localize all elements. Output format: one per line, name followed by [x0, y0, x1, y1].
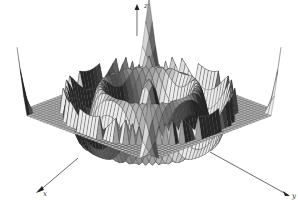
- y-axis: [210, 152, 290, 196]
- x-axis-label: x: [43, 190, 47, 198]
- surface-facet: [17, 47, 24, 85]
- surface-facet: [274, 47, 281, 85]
- surface-facet: [271, 72, 278, 102]
- y-axis-label: y: [292, 192, 296, 200]
- surface-plot: [0, 0, 298, 208]
- z-axis: [135, 4, 140, 36]
- surface-facet: [20, 72, 27, 102]
- z-axis-label: z: [144, 2, 148, 10]
- surface-mesh: [17, 0, 281, 165]
- x-axis: [36, 158, 78, 193]
